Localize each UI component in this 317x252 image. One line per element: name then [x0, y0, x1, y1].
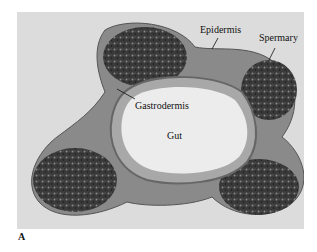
micrograph-photo: Epidermis Spermary Gastrodermis Gut — [17, 12, 304, 229]
spermary-lobe — [33, 148, 117, 212]
epidermis-pointer — [212, 38, 218, 49]
panel-label: A — [18, 231, 25, 242]
label-gastrodermis: Gastrodermis — [135, 100, 189, 111]
tissue-cross-section — [17, 12, 304, 229]
spermary-pointer — [269, 48, 275, 60]
label-spermary: Spermary — [259, 32, 298, 43]
label-epidermis: Epidermis — [200, 24, 241, 35]
label-gut: Gut — [167, 130, 182, 141]
